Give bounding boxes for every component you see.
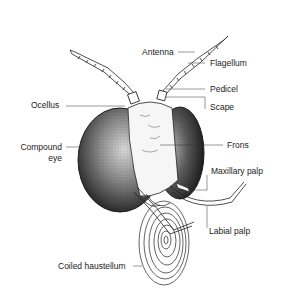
- label-flagellum: Flagellum: [210, 58, 247, 68]
- label-frons: Frons: [227, 140, 249, 150]
- label-ocellus: Ocellus: [31, 100, 59, 110]
- label-compound-eye-line2: eye: [16, 153, 62, 163]
- label-scape: Scape: [210, 102, 234, 112]
- label-coiled-haustellum: Coiled haustellum: [58, 261, 126, 271]
- label-labial-palp: Labial palp: [209, 226, 250, 236]
- label-antenna: Antenna: [142, 47, 174, 57]
- label-compound-eye-line1: Compound: [16, 142, 62, 152]
- label-pedicel: Pedicel: [210, 84, 238, 94]
- label-maxillary-palp: Maxillary palp: [211, 166, 263, 176]
- coiled-haustellum: [139, 194, 189, 285]
- antenna-left: [70, 50, 139, 104]
- insect-head-diagram: Antenna Flagellum Pedicel Scape Ocellus …: [0, 0, 292, 306]
